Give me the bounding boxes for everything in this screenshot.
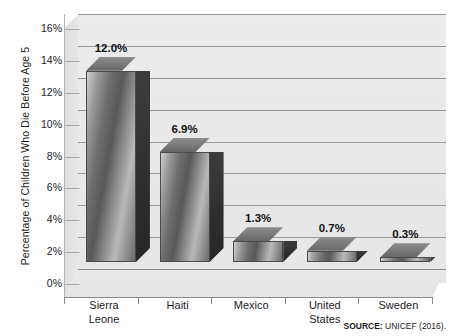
x-axis-category-label: Sweden [353, 299, 443, 313]
y-axis-tick-label: 16% [22, 22, 62, 34]
gridline [78, 46, 446, 47]
y-axis-tick-label: 10% [22, 118, 62, 130]
y-axis-tick-labels: 16%14%12%10%8%6%4%2%0% [22, 0, 62, 336]
gridline [78, 14, 446, 15]
bar: 1.3% [233, 241, 283, 262]
bar-front-face [86, 71, 136, 262]
bar: 0.7% [307, 251, 357, 262]
y-axis-tick-label: 4% [22, 213, 62, 225]
bar-value-label: 0.3% [392, 228, 418, 240]
bar-value-label: 6.9% [171, 123, 197, 135]
bar-chart-figure: Percentage of Children Who Die Before Ag… [0, 0, 454, 336]
bar-front-face [380, 257, 430, 262]
source-text: UNICEF (2016). [383, 321, 446, 331]
y-axis-tick-label: 0% [22, 277, 62, 289]
bar-value-label: 1.3% [245, 212, 271, 224]
bar: 12.0% [86, 71, 136, 262]
axis-baseline [78, 269, 446, 270]
plot-area: 12.0%6.9%1.3%0.7%0.3% [64, 14, 446, 290]
bar: 0.3% [380, 257, 430, 262]
bar: 6.9% [160, 152, 210, 262]
plot-floor [64, 269, 446, 297]
axis-front-edge [64, 297, 432, 298]
axis-left-edge [64, 14, 65, 297]
bar-front-face [160, 152, 210, 262]
y-axis-tick-label: 14% [22, 54, 62, 66]
bar-side-face [136, 71, 150, 262]
bar-front-face [233, 241, 283, 262]
y-axis-tick-label: 6% [22, 181, 62, 193]
bar-value-label: 12.0% [95, 42, 128, 54]
y-axis-tick-label: 8% [22, 150, 62, 162]
y-axis-tick-label: 12% [22, 86, 62, 98]
bar-side-face [210, 152, 224, 262]
source-note: SOURCE: UNICEF (2016). [344, 321, 447, 331]
bar-front-face [307, 251, 357, 262]
bar-value-label: 0.7% [319, 222, 345, 234]
source-label: SOURCE: [344, 321, 383, 331]
y-axis-tick-label: 2% [22, 245, 62, 257]
plot-left-wall [64, 14, 79, 297]
